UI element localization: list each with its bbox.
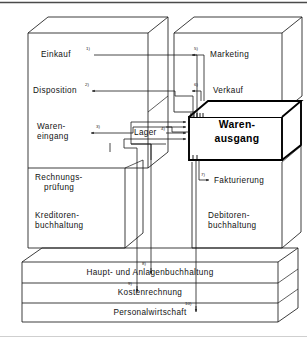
marker-6: 6) xyxy=(194,82,198,87)
label-verkauf[interactable]: Verkauf xyxy=(213,86,243,96)
marker-7: 7) xyxy=(201,172,205,177)
marker-5: 5) xyxy=(194,46,198,51)
label-fakturierung[interactable]: Fakturierung xyxy=(214,176,264,186)
marker-4: 4) xyxy=(161,126,165,131)
label-warenausgang-line1[interactable]: Waren- xyxy=(207,119,267,131)
label-kostenrechnung[interactable]: Kostenrechnung xyxy=(30,288,270,298)
marker-2: 2) xyxy=(85,82,89,87)
diagram-canvas: Einkauf 1) Disposition 2) Waren- eingang… xyxy=(0,0,307,340)
marker-8: 8) xyxy=(142,261,146,266)
label-marketing[interactable]: Marketing xyxy=(210,50,249,60)
label-hauptbuchhaltung[interactable]: Haupt- und Anlagenbuchhaltung xyxy=(30,268,270,278)
label-wareneingang-line2[interactable]: eingang xyxy=(37,132,69,142)
label-kreditorenbuchhaltung-line1[interactable]: Kreditoren- xyxy=(35,211,79,221)
label-debitorenbuchhaltung-line2[interactable]: buchhaltung xyxy=(208,221,256,231)
marker-1: 1) xyxy=(86,46,90,51)
marker-10: 10) xyxy=(185,301,191,306)
connector-2 xyxy=(92,91,193,117)
block-right-lower xyxy=(192,146,301,248)
marker-9: 9) xyxy=(128,281,132,286)
label-kreditorenbuchhaltung-line2[interactable]: buchhaltung xyxy=(35,221,83,231)
connector-1 xyxy=(94,55,197,117)
label-debitorenbuchhaltung-line1[interactable]: Debitoren- xyxy=(208,211,250,221)
label-einkauf[interactable]: Einkauf xyxy=(41,50,71,60)
label-lager[interactable]: Lager xyxy=(134,128,157,138)
label-rechnungspruefung-line1[interactable]: Rechnungs- xyxy=(35,173,83,183)
connector-7 xyxy=(199,160,209,180)
connector-5 xyxy=(192,55,204,101)
label-rechnungspruefung-line2[interactable]: prüfung xyxy=(44,183,74,193)
label-personalwirtschaft[interactable]: Personalwirtschaft xyxy=(30,308,270,318)
label-disposition[interactable]: Disposition xyxy=(33,86,77,96)
label-warenausgang-line2[interactable]: ausgang xyxy=(207,133,267,145)
marker-3: 3) xyxy=(96,124,100,129)
label-wareneingang-line1[interactable]: Waren- xyxy=(37,122,66,132)
